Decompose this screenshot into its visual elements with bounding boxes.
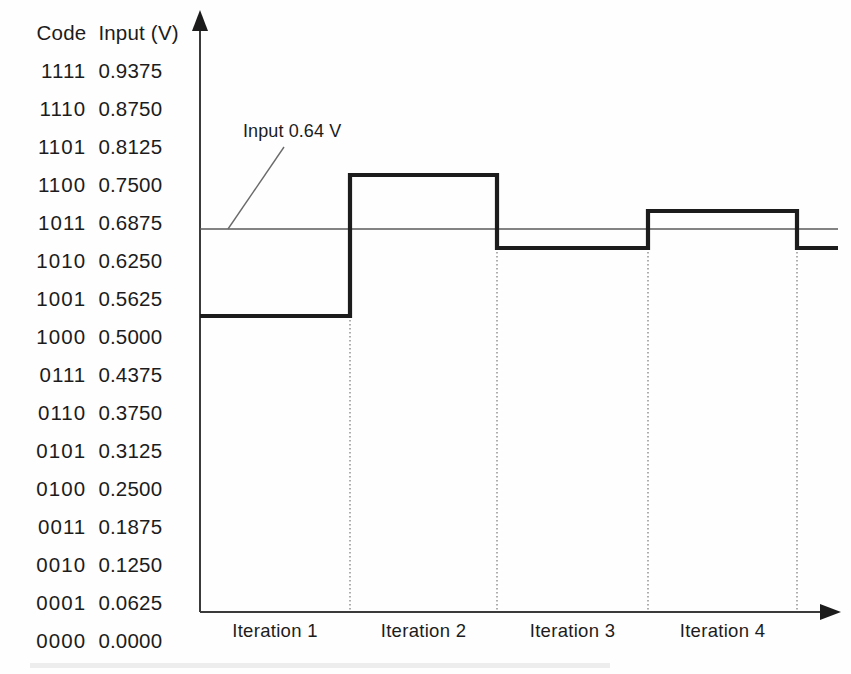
sar-adc-diagram: Code Input (V) 1111 0.9375 1110 0.8750 1… (0, 0, 851, 674)
annotation-leader-line (228, 147, 284, 229)
sar-waveform-plot (0, 0, 851, 674)
axis-label-iteration-3: Iteration 3 (497, 620, 648, 642)
dac-output-waveform (200, 175, 838, 316)
axis-label-iteration-4: Iteration 4 (648, 620, 797, 642)
footer-divider (30, 663, 610, 668)
axis-label-iteration-1: Iteration 1 (200, 620, 350, 642)
input-voltage-annotation: Input 0.64 V (243, 121, 341, 142)
axis-label-iteration-2: Iteration 2 (350, 620, 497, 642)
y-axis-arrowhead (192, 10, 208, 31)
x-axis-arrowhead (820, 604, 841, 620)
